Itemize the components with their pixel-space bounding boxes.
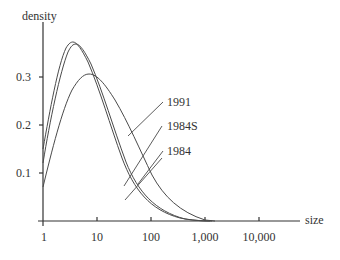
x-tick-100: 100 <box>142 230 160 244</box>
y-tick-0.3: 0.3 <box>16 70 31 84</box>
series-label-1984: 1984 <box>167 144 191 158</box>
y-tick-0.2: 0.2 <box>16 118 31 132</box>
x-axis-label: size <box>305 213 324 227</box>
series-label-1991: 1991 <box>167 95 191 109</box>
y-ticks: 0.1 0.2 0.3 <box>16 70 43 180</box>
y-axis-label: density <box>22 9 57 23</box>
density-chart: density size 0.1 0.2 0.3 1 10 100 1,000 … <box>0 0 340 260</box>
series-label-1984S: 1984S <box>167 119 198 133</box>
x-tick-10: 10 <box>91 230 103 244</box>
leader-1991-line <box>128 102 163 136</box>
y-tick-0.1: 0.1 <box>16 166 31 180</box>
x-tick-10000: 10,000 <box>243 230 276 244</box>
x-tick-1000: 1,000 <box>192 230 219 244</box>
leader-1984-line <box>138 151 163 184</box>
x-tick-1: 1 <box>41 230 47 244</box>
